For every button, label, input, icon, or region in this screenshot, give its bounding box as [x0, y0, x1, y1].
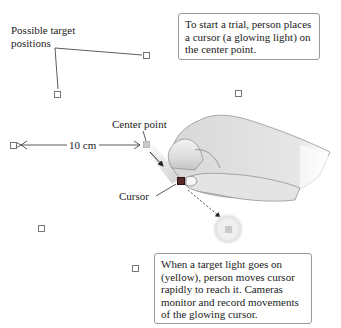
target-square	[132, 265, 139, 272]
target-square	[10, 142, 17, 149]
cursor-icon	[177, 177, 185, 185]
possible-targets-label: Possible target positions	[11, 24, 75, 50]
possible-targets-label-line1: Possible target	[11, 24, 75, 37]
target-square	[235, 90, 242, 97]
distance-label: 10 cm	[69, 139, 96, 152]
start-trial-callout: To start a trial, person places a cursor…	[178, 13, 320, 60]
hand-illustration	[168, 115, 341, 207]
target-light-callout: When a target light goes on (yellow), pe…	[154, 253, 312, 324]
target-square	[143, 52, 150, 59]
center-point-leader	[143, 131, 146, 141]
target-square	[38, 225, 45, 232]
target-square	[54, 91, 61, 98]
center-point-icon	[143, 141, 150, 148]
center-point-label: Center point	[112, 118, 167, 131]
cursor-label: Cursor	[119, 190, 149, 203]
cursor-leader	[156, 184, 176, 196]
active-target-icon	[225, 226, 232, 233]
possible-targets-label-line2: positions	[11, 37, 75, 50]
possible-targets-leader	[55, 48, 142, 89]
